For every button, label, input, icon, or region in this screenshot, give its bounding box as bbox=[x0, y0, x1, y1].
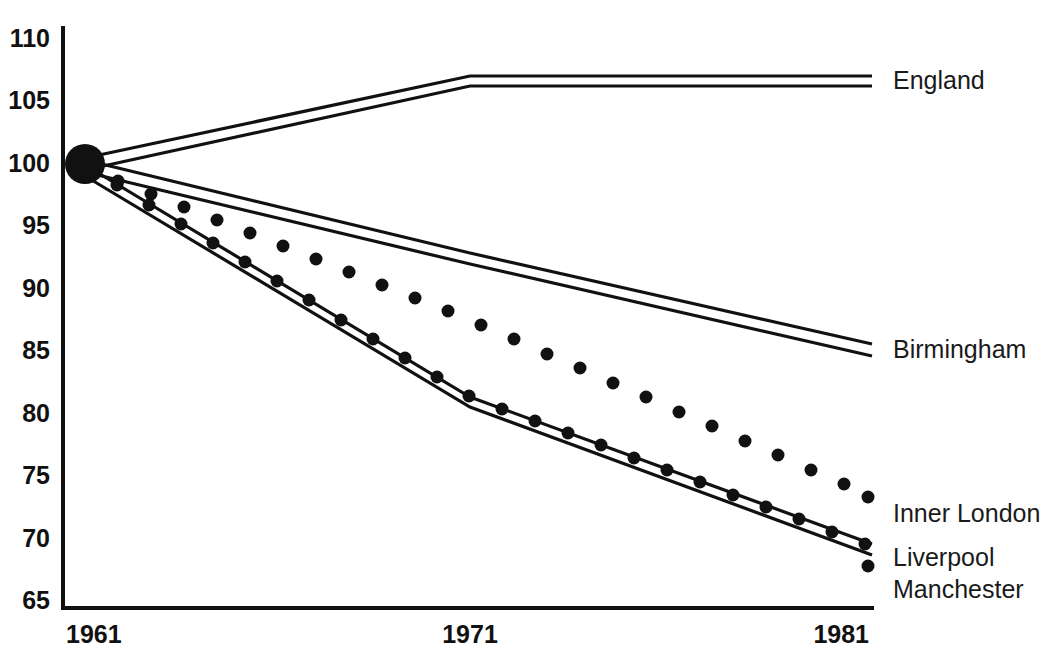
chart-canvas: 110 105 100 95 90 85 80 75 70 65 1961 19… bbox=[0, 0, 1049, 660]
y-axis-tick-95: 95 bbox=[22, 211, 50, 239]
y-axis-tick-70: 70 bbox=[22, 524, 50, 552]
y-axis-tick-75: 75 bbox=[22, 461, 50, 489]
y-axis-tick-85: 85 bbox=[22, 336, 50, 364]
x-axis-tick-1971: 1971 bbox=[442, 620, 498, 648]
y-axis-tick-100: 100 bbox=[8, 149, 50, 177]
series-line-liverpool bbox=[85, 165, 872, 555]
y-axis-tick-110: 110 bbox=[10, 24, 50, 52]
y-axis-tick-80: 80 bbox=[22, 399, 50, 427]
series-label-birmingham: Birmingham bbox=[893, 335, 1026, 363]
series-line-england bbox=[85, 76, 872, 170]
x-axis-tick-1961: 1961 bbox=[66, 620, 122, 648]
x-axis-tick-1981: 1981 bbox=[813, 620, 869, 648]
y-axis-tick-90: 90 bbox=[22, 274, 50, 302]
y-axis-tick-105: 105 bbox=[8, 86, 50, 114]
series-label-england: England bbox=[893, 66, 985, 94]
series-label-manchester: Manchester bbox=[893, 575, 1024, 603]
y-axis-tick-65: 65 bbox=[22, 586, 50, 614]
series-label-liverpool: Liverpool bbox=[893, 543, 994, 571]
origin-point-marker bbox=[65, 144, 105, 184]
series-line-inner-london bbox=[112, 175, 875, 504]
series-label-inner-london: Inner London bbox=[893, 499, 1040, 527]
population-index-line-chart: 110 105 100 95 90 85 80 75 70 65 1961 19… bbox=[0, 0, 1049, 660]
